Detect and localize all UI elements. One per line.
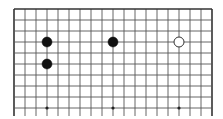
black-stone[interactable] <box>108 37 118 47</box>
star-point <box>177 106 180 109</box>
star-point <box>111 106 114 109</box>
star-point <box>45 106 48 109</box>
black-stone[interactable] <box>42 59 52 69</box>
black-stone[interactable] <box>42 37 52 47</box>
go-board[interactable] <box>0 0 223 119</box>
white-stone[interactable] <box>174 37 184 47</box>
